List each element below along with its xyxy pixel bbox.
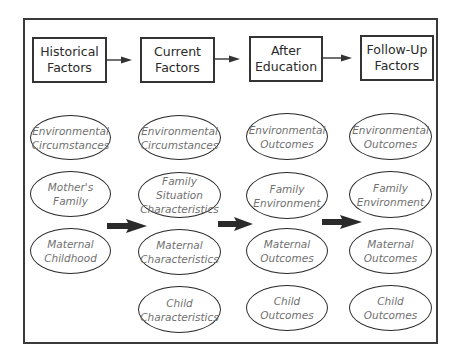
- thin-arrow-icon: [107, 55, 352, 64]
- arrows-layer: [0, 0, 460, 361]
- thick-arrow-icon: [107, 215, 362, 233]
